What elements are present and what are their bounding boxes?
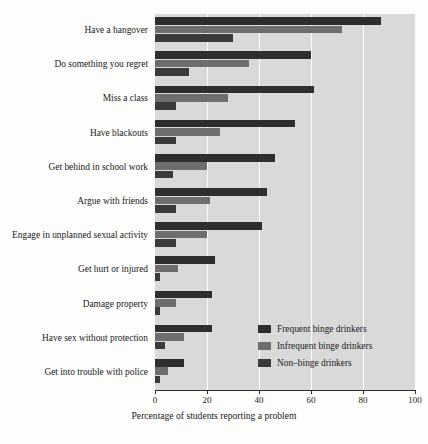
bar xyxy=(155,128,220,136)
category-axis-labels: Have a hangoverDo something you regretMi… xyxy=(0,14,150,390)
bar xyxy=(155,367,168,375)
bar xyxy=(155,51,311,59)
bar xyxy=(155,231,207,239)
x-tick-label: 100 xyxy=(408,395,422,405)
x-tick xyxy=(207,390,208,394)
x-tick xyxy=(155,390,156,394)
bar-group xyxy=(155,151,415,185)
bar-group xyxy=(155,219,415,253)
bar xyxy=(155,222,262,230)
legend-item: Infrequent binge drinkers xyxy=(258,339,372,353)
bar xyxy=(155,325,212,333)
bar xyxy=(155,68,189,76)
bar-group xyxy=(155,14,415,48)
x-tick xyxy=(415,390,416,394)
bar xyxy=(155,265,178,273)
bar xyxy=(155,34,233,42)
bar xyxy=(155,205,176,213)
legend-item: Non–binge drinkers xyxy=(258,356,372,370)
legend-swatch-icon xyxy=(258,359,271,367)
bar-group xyxy=(155,253,415,287)
x-tick-label: 40 xyxy=(255,395,264,405)
bar xyxy=(155,273,160,281)
bar xyxy=(155,94,228,102)
gridline xyxy=(415,14,416,390)
x-axis-title: Percentage of students reporting a probl… xyxy=(0,410,428,421)
x-tick xyxy=(363,390,364,394)
x-tick-label: 0 xyxy=(153,395,158,405)
bar xyxy=(155,26,342,34)
category-label: Have sex without protection xyxy=(0,333,148,343)
bar-group xyxy=(155,117,415,151)
bar xyxy=(155,162,207,170)
bar xyxy=(155,333,184,341)
bar xyxy=(155,102,176,110)
category-label: Get behind in school work xyxy=(0,162,148,172)
legend-swatch-icon xyxy=(258,325,271,333)
category-label: Miss a class xyxy=(0,93,148,103)
bar xyxy=(155,137,176,145)
legend-label: Non–binge drinkers xyxy=(277,358,352,368)
category-label: Have blackouts xyxy=(0,128,148,138)
legend-label: Infrequent binge drinkers xyxy=(277,341,372,351)
legend-item: Frequent binge drinkers xyxy=(258,322,372,336)
bar xyxy=(155,376,160,384)
x-tick xyxy=(311,390,312,394)
legend-label: Frequent binge drinkers xyxy=(277,324,367,334)
bar xyxy=(155,171,173,179)
bar xyxy=(155,359,184,367)
category-label: Get hurt or injured xyxy=(0,264,148,274)
category-label: Engage in unplanned sexual activity xyxy=(0,230,148,240)
category-label: Get into trouble with police xyxy=(0,367,148,377)
bar xyxy=(155,188,267,196)
bar xyxy=(155,197,210,205)
bar xyxy=(155,291,212,299)
bar xyxy=(155,342,165,350)
bar-chart: Have a hangoverDo something you regretMi… xyxy=(0,0,428,444)
bar-group xyxy=(155,48,415,82)
bar-group xyxy=(155,82,415,116)
category-label: Have a hangover xyxy=(0,25,148,35)
bar xyxy=(155,307,160,315)
bar xyxy=(155,239,176,247)
bar-group xyxy=(155,185,415,219)
x-tick-label: 20 xyxy=(203,395,212,405)
bar-group xyxy=(155,287,415,321)
category-label: Damage property xyxy=(0,299,148,309)
bar xyxy=(155,86,314,94)
bar xyxy=(155,154,275,162)
bar xyxy=(155,299,176,307)
x-tick-label: 60 xyxy=(307,395,316,405)
x-tick-label: 80 xyxy=(359,395,368,405)
category-label: Do something you regret xyxy=(0,59,148,69)
bar xyxy=(155,120,295,128)
x-axis-line xyxy=(155,390,415,391)
legend: Frequent binge drinkersInfrequent binge … xyxy=(258,322,372,373)
legend-swatch-icon xyxy=(258,342,271,350)
x-tick xyxy=(259,390,260,394)
bar xyxy=(155,256,215,264)
bar xyxy=(155,60,249,68)
bar xyxy=(155,17,381,25)
category-label: Argue with friends xyxy=(0,196,148,206)
